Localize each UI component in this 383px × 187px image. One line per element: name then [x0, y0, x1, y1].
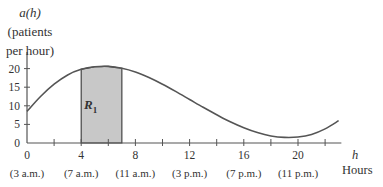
- x-time-label: (7 p.m.): [214, 166, 274, 180]
- y-tick-label: 15: [4, 80, 20, 94]
- x-time-label: (3 p.m.): [160, 166, 220, 180]
- curve-a-of-h: [27, 66, 339, 137]
- x-tick-label: 4: [66, 148, 96, 162]
- y-axis-unit-1: (patients: [0, 22, 60, 41]
- x-time-label: (11 p.m.): [268, 166, 328, 180]
- y-axis-unit-2: per hour): [0, 41, 60, 60]
- x-tick-label: 20: [283, 148, 313, 162]
- y-tick-label: 20: [4, 62, 20, 76]
- y-tick-label: 5: [4, 117, 20, 131]
- x-time-label: (7 a.m.): [51, 166, 111, 180]
- axes: [24, 52, 341, 146]
- x-time-label: (11 a.m.): [105, 166, 165, 180]
- x-tick-label: 16: [229, 148, 259, 162]
- x-tick-label: 12: [175, 148, 205, 162]
- x-time-label: (3 a.m.): [0, 166, 57, 180]
- region-subscript: 1: [93, 105, 98, 115]
- y-axis-title: a(h) (patients per hour): [0, 3, 60, 60]
- region-letter: R: [84, 97, 93, 112]
- x-axis-title: Hours: [342, 163, 373, 177]
- x-tick-label: 0: [12, 148, 42, 162]
- region-label: R1: [84, 98, 97, 117]
- y-axis-var: a(h): [19, 5, 41, 20]
- y-tick-label: 10: [4, 99, 20, 113]
- x-axis-var: h: [352, 148, 358, 162]
- x-tick-label: 8: [120, 148, 150, 162]
